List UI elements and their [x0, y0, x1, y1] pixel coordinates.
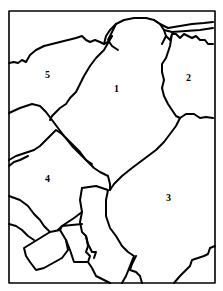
region-label-4: 4 — [45, 174, 50, 184]
region-label-5: 5 — [45, 70, 50, 80]
boundary-2-south — [180, 114, 213, 118]
boundary-west-1 — [9, 104, 110, 190]
boundary-1-3 — [110, 118, 180, 190]
region-label-1: 1 — [114, 84, 119, 94]
map-canvas — [0, 0, 223, 291]
boundary-5-1 — [50, 36, 112, 120]
lake-inlet — [108, 24, 118, 50]
boundary-sw-2 — [9, 224, 34, 240]
boundary-central-strip — [82, 186, 134, 283]
region-label-3: 3 — [166, 193, 171, 203]
parcel-block — [24, 230, 68, 270]
river-north-2 — [164, 28, 213, 32]
boundary-5-north — [9, 36, 112, 63]
region-label-2: 2 — [186, 73, 191, 83]
boundary-south-3 — [174, 246, 215, 283]
